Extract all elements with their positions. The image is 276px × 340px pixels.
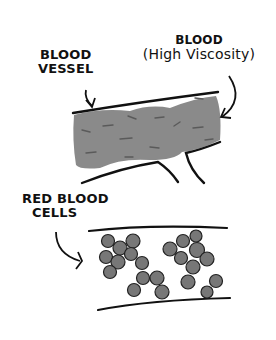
red-blood-cell [104, 266, 117, 279]
red-blood-cell [126, 234, 140, 248]
vessel-wall-top [89, 227, 227, 231]
blood-label-title: BLOOD [136, 34, 262, 47]
red-blood-cells [100, 230, 223, 299]
red-blood-cell [128, 284, 141, 297]
red-blood-cell [200, 252, 214, 266]
red-blood-cell [125, 248, 138, 261]
blood-fill [73, 96, 220, 169]
red-blood-cell [155, 285, 169, 299]
red-blood-cells-label: RED BLOOD CELLS [22, 192, 109, 219]
clumped-red-blood-cells [56, 227, 230, 310]
red-blood-cell [102, 235, 115, 248]
red-blood-cell [150, 271, 164, 285]
red-blood-cell [177, 235, 190, 248]
arrow-to-cells [56, 232, 80, 261]
blood-vessel-label: BLOOD VESSEL [38, 48, 93, 75]
red-blood-cell [181, 275, 195, 289]
blood-label: BLOOD (High Viscosity) [136, 34, 262, 61]
red-blood-cell [137, 272, 150, 285]
red-blood-cell [175, 252, 188, 265]
red-blood-cell [190, 230, 202, 242]
blood-vessel-label-line1: BLOOD [38, 48, 93, 62]
red-blood-cell [186, 260, 200, 274]
red-blood-cell [136, 257, 149, 270]
red-blood-cell [163, 242, 177, 256]
illustration: BLOOD VESSEL BLOOD (High Viscosity) RED … [0, 0, 276, 340]
vessel-wall-bottom [98, 298, 230, 310]
high-viscosity-vessel [73, 76, 236, 183]
blood-vessel-label-line2: VESSEL [38, 62, 93, 76]
red-blood-cell [210, 275, 223, 288]
red-blood-cell [201, 286, 213, 298]
red-blood-cells-label-line2: CELLS [22, 206, 109, 220]
blood-label-subtitle: (High Viscosity) [136, 47, 262, 62]
red-blood-cells-label-line1: RED BLOOD [22, 192, 109, 206]
